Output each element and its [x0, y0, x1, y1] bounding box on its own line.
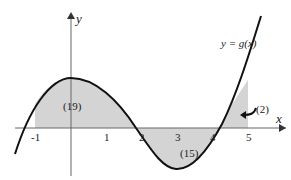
x-tick-1: 1 — [104, 132, 110, 143]
region-label-15: (15) — [180, 148, 198, 159]
function-label: y = g(x) — [221, 38, 257, 49]
x-axis-label: x — [276, 112, 282, 125]
y-axis-arrow-icon — [67, 12, 75, 19]
x-tick-4: 4 — [210, 132, 216, 143]
x-tick-3: 3 — [175, 132, 181, 143]
x-tick-neg1: -1 — [31, 132, 40, 143]
x-tick-2: 2 — [139, 132, 145, 143]
region-label-19: (19) — [63, 101, 81, 112]
graph-canvas — [0, 0, 291, 180]
shaded-region-positive-left — [35, 78, 136, 128]
y-axis-label: y — [76, 12, 82, 25]
x-tick-5: 5 — [246, 132, 252, 143]
region-label-2: (2) — [256, 104, 269, 115]
